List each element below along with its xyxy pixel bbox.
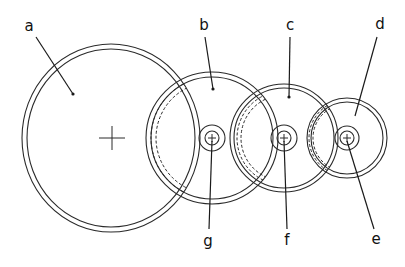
label-g: g (203, 141, 213, 250)
label-text: e (371, 230, 380, 248)
leader-dot (71, 92, 74, 95)
leader-line (347, 141, 374, 229)
gear-a (22, 44, 200, 232)
label-text: c (286, 16, 294, 34)
label-b: b (199, 16, 214, 91)
label-text: d (375, 15, 385, 33)
label-text: b (199, 16, 209, 34)
leader-line (205, 37, 213, 89)
leader-line (284, 141, 287, 229)
label-text: g (203, 232, 213, 250)
leader-dot (287, 95, 290, 98)
label-c: c (286, 16, 294, 99)
leader-dot (211, 87, 214, 90)
label-e: e (347, 141, 381, 248)
gear-train-diagram: abcdgfe (0, 0, 405, 267)
label-d: d (355, 15, 385, 116)
label-text: f (284, 231, 290, 249)
hub-e (335, 126, 359, 150)
leader-line (209, 141, 212, 229)
label-f: f (284, 141, 290, 249)
hubs-layer (199, 125, 359, 151)
label-text: a (24, 17, 33, 35)
leader-line (355, 37, 377, 116)
leader-line (36, 37, 73, 94)
